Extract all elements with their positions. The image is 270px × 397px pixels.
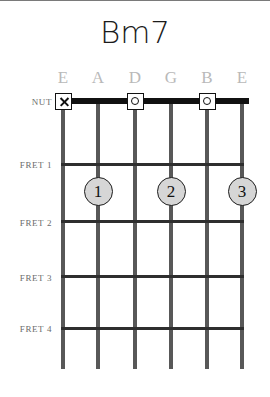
- finger-dot-2: 2: [157, 177, 186, 206]
- chord-name-title: Bm7: [0, 15, 270, 49]
- string-name-3: D: [124, 68, 146, 88]
- finger-dot-3: 3: [228, 177, 257, 206]
- open-string-marker-5: [199, 93, 216, 110]
- fret-label-4: FRET 4: [0, 324, 52, 334]
- fret-line-1: [61, 163, 244, 166]
- open-string-marker-3: [127, 93, 144, 110]
- muted-string-marker-1: [55, 93, 72, 110]
- finger-dot-1: 1: [84, 177, 113, 206]
- string-name-2: A: [87, 68, 109, 88]
- fret-label-3: FRET 3: [0, 273, 52, 283]
- circle-icon: [131, 97, 139, 105]
- string-name-6: E: [231, 68, 253, 88]
- fret-line-2: [61, 220, 244, 223]
- string-name-1: E: [52, 68, 74, 88]
- nut-bar: [59, 98, 249, 104]
- x-icon: [59, 97, 68, 106]
- fret-label-2: FRET 2: [0, 218, 52, 228]
- string-name-5: B: [196, 68, 218, 88]
- fret-label-1: FRET 1: [0, 160, 52, 170]
- fret-line-3: [61, 275, 244, 278]
- circle-icon: [203, 97, 211, 105]
- chord-diagram-page: Bm7 E A D G B E NUT FRET 1 FRET 2 FRET 3…: [0, 0, 270, 397]
- fret-line-4: [61, 327, 244, 330]
- string-name-4: G: [160, 68, 182, 88]
- nut-label: NUT: [0, 97, 52, 107]
